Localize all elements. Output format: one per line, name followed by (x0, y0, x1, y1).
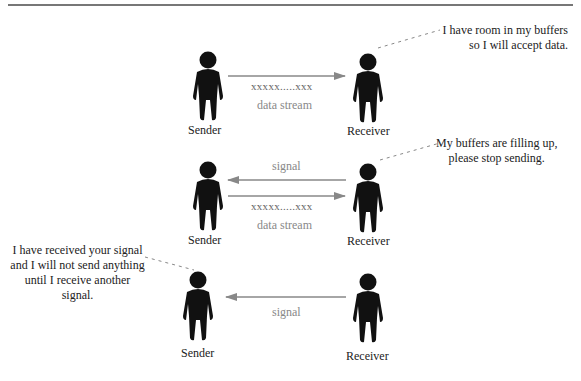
data-packets: xxxxx.....xxx (251, 200, 313, 212)
receiver-figure (353, 164, 383, 233)
arrow-caption: data stream (257, 98, 312, 113)
receiver-figure (353, 274, 383, 343)
receiver-label: Receiver (346, 349, 389, 364)
arrow-caption: data stream (257, 218, 312, 233)
note-line: please stop sending. (436, 151, 557, 166)
sender-label: Sender (181, 346, 214, 361)
note-line: until I receive another (10, 273, 145, 288)
receiver-label: Receiver (347, 234, 390, 249)
receiver-note: My buffers are filling up, please stop s… (436, 136, 557, 166)
note-line: and I will not send anything (10, 258, 145, 273)
arrow-caption: signal (272, 305, 301, 320)
callout-line (145, 257, 194, 270)
note-line: so I will accept data. (443, 38, 568, 53)
sender-note: I have received your signal and I will n… (10, 243, 145, 303)
receiver-label: Receiver (347, 124, 390, 139)
note-line: My buffers are filling up, (436, 136, 557, 151)
sender-figure (193, 52, 223, 121)
diagram-canvas (0, 0, 581, 381)
sender-figure (183, 272, 213, 341)
receiver-note: I have room in my buffers so I will acce… (443, 23, 568, 53)
callout-line (378, 30, 440, 48)
sender-label: Sender (188, 123, 221, 138)
note-line: I have room in my buffers (443, 23, 568, 38)
note-line: I have received your signal (10, 243, 145, 258)
sender-figure (193, 162, 223, 231)
receiver-figure (353, 54, 383, 123)
sender-label: Sender (188, 233, 221, 248)
arrow-caption: signal (272, 159, 301, 174)
note-line: signal. (10, 288, 145, 303)
callout-line (380, 143, 440, 160)
data-packets: xxxxx.....xxx (251, 80, 313, 92)
